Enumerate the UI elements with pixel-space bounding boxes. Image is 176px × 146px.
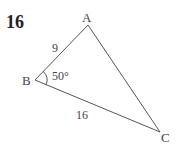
- triangle-diagram: A B C 9 16 50°: [0, 0, 176, 146]
- angle-b-arc: [43, 71, 47, 84]
- vertex-label-c: C: [161, 130, 170, 145]
- side-bc-length: 16: [76, 108, 88, 122]
- vertex-label-a: A: [82, 10, 92, 25]
- vertex-label-b: B: [22, 73, 31, 88]
- side-ab-length: 9: [52, 41, 58, 55]
- angle-b-measure: 50°: [52, 69, 69, 83]
